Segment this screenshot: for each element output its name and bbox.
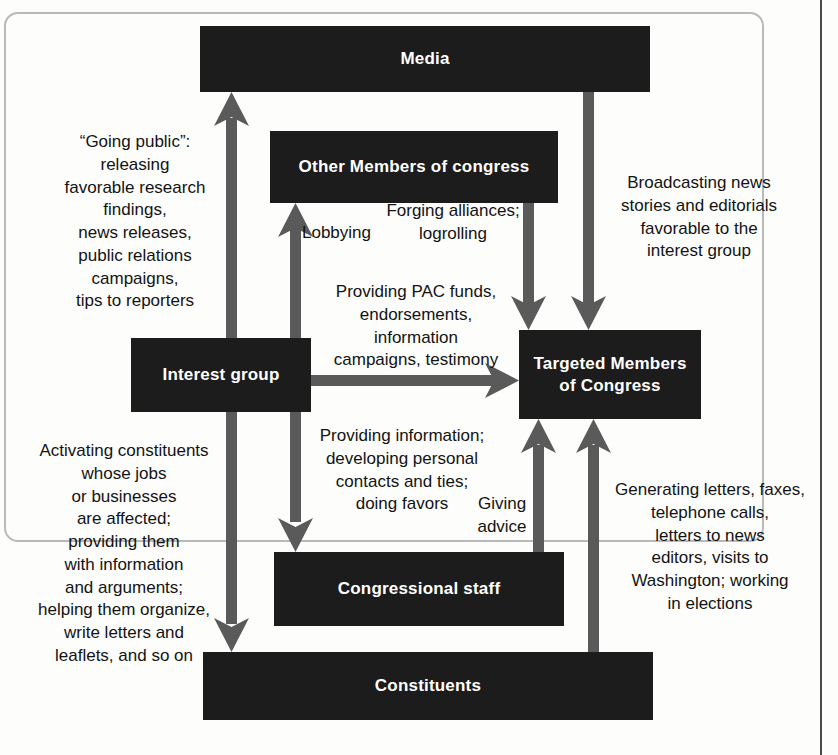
diagram-canvas: Media Other Members of congress Interest… [0, 0, 838, 755]
node-targeted-members-of-congress[interactable]: Targeted Members of Congress [519, 330, 701, 419]
label-giving-advice: Giving advice [471, 493, 533, 539]
node-targeted-members-label: Targeted Members of Congress [527, 353, 693, 396]
label-going-public: “Going public”: releasing favorable rese… [45, 131, 225, 313]
label-forging-alliances: Forging alliances; logrolling [382, 200, 524, 246]
node-media-label: Media [400, 48, 449, 69]
node-constituents-label: Constituents [375, 675, 481, 696]
node-media[interactable]: Media [200, 26, 650, 92]
label-providing-pac-funds: Providing PAC funds, endorsements, infor… [308, 281, 524, 372]
node-other-members-label: Other Members of congress [299, 156, 530, 177]
node-congressional-staff-label: Congressional staff [338, 578, 501, 599]
label-generating-letters: Generating letters, faxes, telephone cal… [601, 479, 819, 616]
node-constituents[interactable]: Constituents [203, 652, 653, 720]
node-other-members-of-congress[interactable]: Other Members of congress [270, 131, 558, 203]
node-congressional-staff[interactable]: Congressional staff [274, 552, 564, 626]
node-interest-group-label: Interest group [162, 364, 279, 385]
node-interest-group[interactable]: Interest group [131, 338, 311, 412]
label-activating-constituents: Activating constituents whose jobs or bu… [24, 440, 224, 668]
label-broadcasting-news: Broadcasting news stories and editorials… [597, 172, 801, 263]
